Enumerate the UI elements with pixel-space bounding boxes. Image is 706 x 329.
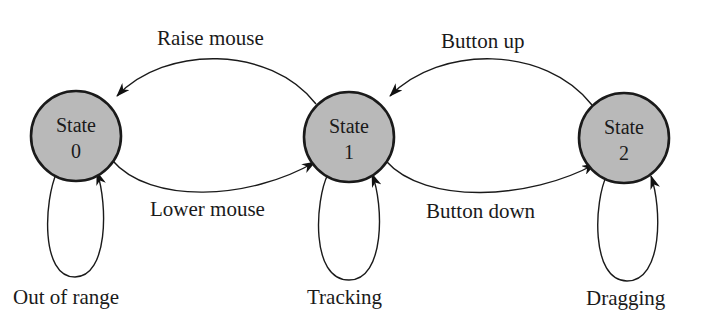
transition-lower-mouse: Lower mouse [112,160,315,221]
button-down-label: Button down [426,199,536,223]
state-2-circle [579,93,669,183]
state-2-title: State [604,116,644,138]
out-of-range-label: Out of range [13,285,119,309]
state-2-number: 2 [619,142,629,164]
transition-dragging: Dragging [586,175,666,310]
state-1-title: State [329,115,369,137]
lower-mouse-label: Lower mouse [150,197,265,221]
state-2-node: State 2 [579,93,669,183]
button-up-arrow-icon [390,59,592,105]
button-up-label: Button up [441,29,524,53]
raise-mouse-label: Raise mouse [157,26,264,50]
dragging-label: Dragging [586,286,666,310]
button-down-arrow-icon [386,161,595,193]
state-0-circle [31,91,121,181]
tracking-label: Tracking [307,285,383,309]
transition-button-down: Button down [386,161,595,223]
state-1-node: State 1 [304,92,394,182]
dragging-loop-icon [598,175,658,281]
raise-mouse-arrow-icon [117,59,316,104]
lower-mouse-arrow-icon [112,160,315,192]
state-0-node: State 0 [31,91,121,181]
tracking-loop-icon [319,174,380,280]
transition-button-up: Button up [390,29,592,105]
out-of-range-loop-icon [48,172,104,277]
state-diagram: Raise mouse Lower mouse Button up Button… [0,0,706,329]
state-1-number: 1 [344,141,354,163]
state-1-circle [304,92,394,182]
transition-out-of-range: Out of range [13,172,119,309]
transition-tracking: Tracking [307,174,383,309]
state-0-number: 0 [71,140,81,162]
transition-raise-mouse: Raise mouse [117,26,316,104]
state-0-title: State [56,114,96,136]
